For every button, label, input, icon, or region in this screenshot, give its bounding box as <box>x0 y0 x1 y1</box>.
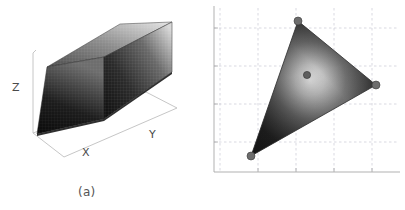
panel-b-plot <box>200 0 405 210</box>
axis-label-z: Z <box>12 81 20 94</box>
vertex-marker-red <box>372 81 380 89</box>
vertex-marker-blue <box>247 152 255 160</box>
axis-label-y: Y <box>149 128 156 141</box>
panel-a-plot <box>0 0 205 210</box>
panel-a-3d-cube: Z X Y (a) <box>0 0 205 210</box>
figure-container: Z X Y (a) <box>0 0 405 210</box>
chromaticity-triangle <box>240 10 390 170</box>
axis-label-x: X <box>82 146 90 159</box>
vertex-marker-green <box>294 17 302 25</box>
panel-b-chromaticity: green red blue white y x (b) <box>200 0 405 210</box>
panel-a-caption: (a) <box>78 185 95 199</box>
z-axis-line <box>33 50 36 133</box>
point-marker-white <box>303 71 310 78</box>
